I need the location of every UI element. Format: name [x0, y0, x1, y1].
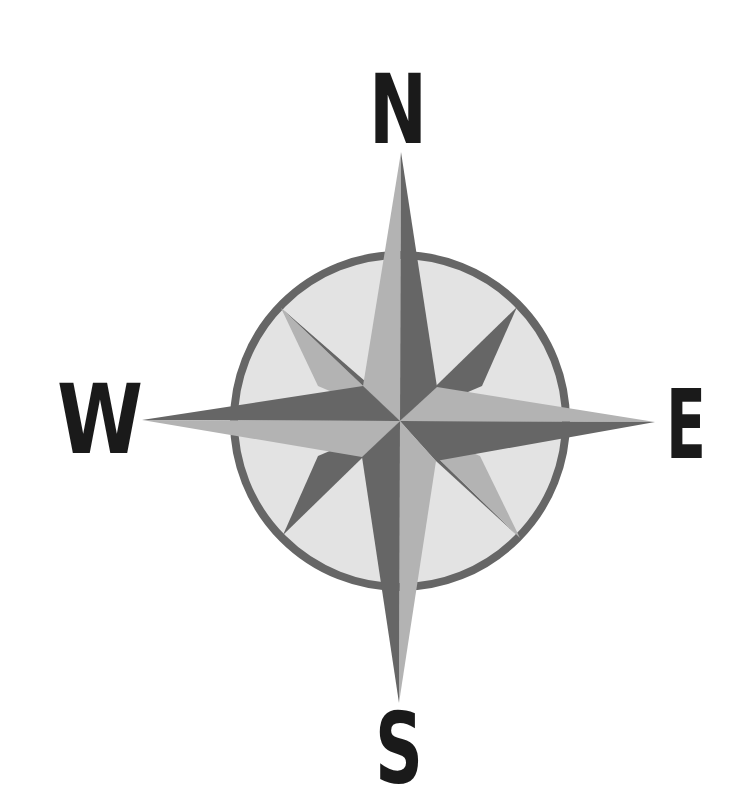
- south-label: S: [375, 692, 423, 806]
- east-label: E: [666, 369, 706, 481]
- west-label: W: [57, 364, 143, 476]
- compass-rose-diagram: N W E S: [0, 0, 740, 809]
- cardinal-points: [142, 152, 655, 703]
- north-label: N: [369, 54, 427, 166]
